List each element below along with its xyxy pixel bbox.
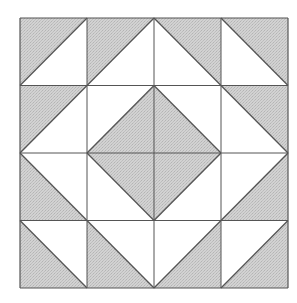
quilt-cell — [154, 18, 221, 86]
quilt-cell — [221, 153, 288, 221]
quilt-cell — [221, 221, 288, 289]
quilt-cell — [221, 18, 288, 86]
quilt-cell — [20, 153, 87, 221]
quilt-cell — [87, 86, 154, 154]
quilt-cell — [20, 221, 87, 289]
quilt-cell — [154, 221, 221, 289]
quilt-cell — [87, 221, 154, 289]
quilt-cell — [154, 86, 221, 154]
quilt-block-diagram — [0, 0, 297, 303]
quilt-cell — [20, 18, 87, 86]
quilt-cell — [154, 153, 221, 221]
quilt-cell — [20, 86, 87, 154]
quilt-cell — [87, 153, 154, 221]
quilt-cell — [221, 86, 288, 154]
quilt-cell — [87, 18, 154, 86]
